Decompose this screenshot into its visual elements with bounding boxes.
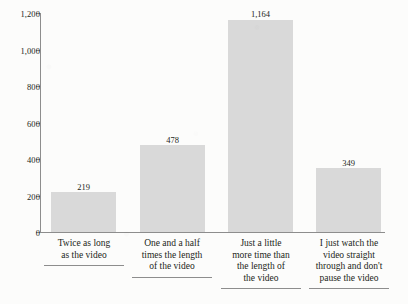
x-category-rule [221,288,301,289]
x-category-line: as the video [39,250,129,262]
y-tick-label: 600 [8,120,40,129]
x-category-line: One and a half [127,238,217,250]
x-category-line: of the video [127,261,217,273]
x-category-line: Twice as long [39,238,129,250]
y-tick-label: 400 [8,156,40,165]
x-category-line: Just a little [216,238,306,250]
bar-twice-as-long[interactable] [51,192,116,232]
x-category-rule [44,265,124,266]
x-category-line: times the length [127,250,217,262]
y-tick-label: 1,200 [8,10,40,19]
x-category-label-3: Just a little more time than the length … [216,238,306,284]
bar-just-a-little-more[interactable] [228,20,293,232]
x-category-line: the video [216,273,306,285]
y-tick-label: 1,000 [8,47,40,56]
bar-one-and-a-half[interactable] [140,145,205,232]
x-category-line: more time than [216,250,306,262]
x-category-rule [309,288,389,289]
x-category-rule [132,277,212,278]
x-category-line: I just watch the [304,238,394,250]
x-category-line: the length of [216,261,306,273]
y-tick-label: 200 [8,193,40,202]
x-category-line: video straight [304,250,394,262]
x-category-label-2: One and a half times the length of the v… [127,238,217,273]
x-category-line: through and don't [304,261,394,273]
x-category-line: pause the video [304,273,394,285]
bar-value-label: 1,164 [228,10,293,19]
x-axis-line [40,232,385,233]
x-category-label-4: I just watch the video straight through … [304,238,394,284]
bar-value-label: 219 [51,183,116,192]
bar-value-label: 349 [316,159,381,168]
y-axis: 1,200 1,000 800 600 400 200 0 [0,0,40,304]
y-tick-label: 800 [8,83,40,92]
bar-value-label: 478 [140,136,205,145]
y-tick-label: 0 [8,229,40,238]
x-category-label-1: Twice as long as the video [39,238,129,261]
bar-watch-straight-through[interactable] [316,168,381,232]
bar-chart: 1,200 1,000 800 600 400 200 0 219 478 1,… [0,0,408,304]
y-axis-line [40,13,41,233]
